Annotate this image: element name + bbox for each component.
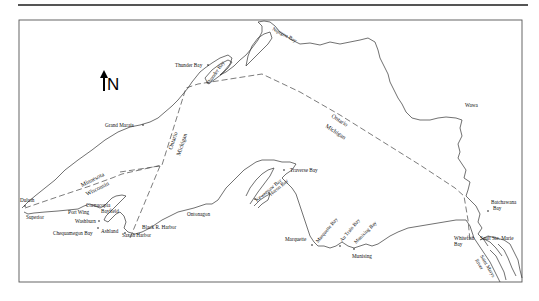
- label-superior: Superior: [26, 214, 44, 220]
- label-thunder-bay-city: Thunder Bay: [175, 62, 203, 68]
- label-port-wing: Port Wing: [68, 209, 90, 215]
- label-marquette-bay: Marquette Bay: [314, 216, 339, 244]
- north-shore-coastline: [22, 21, 488, 246]
- label-ashland: Ashland: [101, 228, 119, 234]
- state-boundaries: [25, 74, 470, 240]
- label-munising: Munising: [352, 253, 372, 259]
- label-nipigon-bay: Nipigon Bay: [272, 26, 299, 44]
- label-batchawana-bay-line2: Bay: [493, 205, 502, 211]
- label-traverse-bay: Traverse Bay: [290, 167, 318, 173]
- label-black-r-harbor: Black R. Harbor: [142, 224, 176, 230]
- map-frame: [19, 20, 522, 282]
- north-arrow-icon: N: [100, 70, 119, 94]
- label-duluth: Duluth: [20, 197, 35, 203]
- nipigon-peninsula: [246, 32, 272, 66]
- label-wawa: Wawa: [465, 102, 479, 108]
- label-whitefish-bay-line2: Bay: [454, 241, 463, 247]
- label-saxon-harbor: Saxon Harbor: [122, 232, 151, 238]
- label-bayfield: Bayfield: [101, 208, 119, 214]
- label-marquette: Marquette: [285, 236, 307, 242]
- label-chequamegon-bay: Chequamegon Bay: [53, 230, 93, 236]
- north-label: N: [107, 75, 119, 94]
- label-washburn: Washburn: [75, 218, 96, 224]
- label-ontonagon: Ontonagon: [187, 211, 210, 217]
- canada-us-border: [25, 74, 470, 240]
- lake-superior-map: N Ontario Michigan Ontario Michigan Minn…: [0, 0, 539, 301]
- label-grand-marais: Grand Marais: [105, 122, 134, 128]
- label-sault-ste-marie: Sault Ste. Marie: [480, 235, 514, 241]
